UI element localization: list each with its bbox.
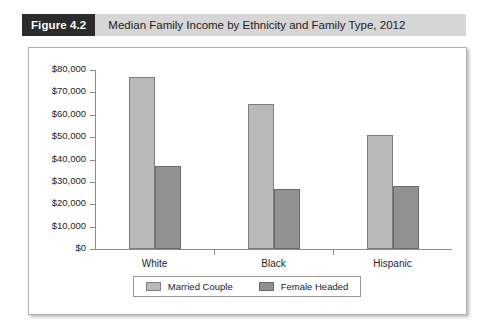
legend-label-female-headed: Female Headed <box>281 281 349 292</box>
plot-area: $0$10,000$20,000$30,000$40,000$50,000$60… <box>95 62 452 257</box>
y-axis-tick: $70,000 <box>90 92 95 93</box>
y-axis-tick-label: $50,000 <box>52 130 86 141</box>
chart-legend: Married Couple Female Headed <box>133 276 361 297</box>
legend-entry-female-headed: Female Headed <box>259 281 349 292</box>
y-axis-tick: $40,000 <box>90 160 95 161</box>
y-axis-tick-label: $40,000 <box>52 153 86 164</box>
figure-title: Median Family Income by Ethnicity and Fa… <box>95 19 405 31</box>
y-axis-tick-label: $20,000 <box>52 197 86 208</box>
x-axis-category-label: Hispanic <box>373 258 411 269</box>
bar <box>155 166 181 249</box>
figure-container: Figure 4.2 Median Family Income by Ethni… <box>0 0 500 335</box>
bar <box>129 77 155 249</box>
x-axis-tick <box>333 250 334 255</box>
y-axis-tick: $80,000 <box>90 70 95 71</box>
legend-swatch-female-headed <box>259 282 274 291</box>
legend-swatch-married-couple <box>146 282 161 291</box>
y-axis-line <box>95 70 96 250</box>
y-axis-tick-label: $80,000 <box>52 63 86 74</box>
x-axis-category-label: Black <box>261 258 285 269</box>
chart-panel: $0$10,000$20,000$30,000$40,000$50,000$60… <box>28 47 467 315</box>
bar <box>274 189 300 249</box>
y-axis-tick-label: $60,000 <box>52 108 86 119</box>
y-axis-tick-label: $70,000 <box>52 85 86 96</box>
y-axis-tick: $60,000 <box>90 115 95 116</box>
y-axis-tick-label: $0 <box>75 242 86 253</box>
figure-number-badge: Figure 4.2 <box>22 14 95 36</box>
x-axis-category-label: White <box>142 258 168 269</box>
y-axis-tick-label: $10,000 <box>52 220 86 231</box>
legend-entry-married-couple: Married Couple <box>146 281 233 292</box>
bar <box>393 186 419 249</box>
y-axis-tick: $30,000 <box>90 182 95 183</box>
y-axis-tick: $10,000 <box>90 227 95 228</box>
figure-header: Figure 4.2 Median Family Income by Ethni… <box>22 14 466 36</box>
legend-label-married-couple: Married Couple <box>168 281 233 292</box>
bar <box>367 135 393 249</box>
x-axis-tick <box>214 250 215 255</box>
x-axis-line <box>95 249 452 250</box>
y-axis-tick: $20,000 <box>90 204 95 205</box>
bar <box>248 104 274 249</box>
y-axis-tick: $50,000 <box>90 137 95 138</box>
y-axis-tick-label: $30,000 <box>52 175 86 186</box>
y-axis-tick: $0 <box>90 249 95 250</box>
